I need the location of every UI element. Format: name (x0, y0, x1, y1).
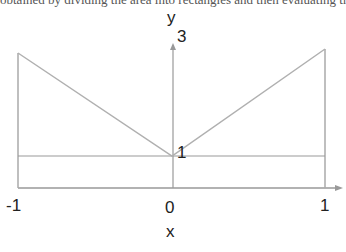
figure-canvas: y 3 1 -1 0 1 x (0, 0, 346, 252)
x-tick-minus-1: -1 (6, 196, 21, 215)
y-axis-arrow-icon (170, 43, 176, 50)
x-axis-label: x (166, 222, 175, 241)
y-tick-3: 3 (177, 27, 186, 46)
v-curve (18, 49, 325, 156)
x-tick-0: 0 (165, 198, 174, 217)
y-axis-label: y (167, 8, 176, 27)
x-tick-1: 1 (320, 196, 329, 215)
x-axis-arrow-icon (335, 185, 343, 191)
y-tick-1: 1 (177, 143, 186, 162)
